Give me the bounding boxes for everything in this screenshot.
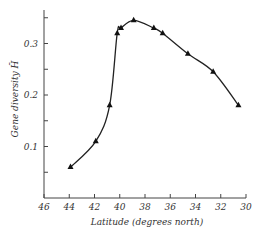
x-tick-label: 44	[63, 202, 76, 212]
x-tick-label: 46	[37, 202, 50, 212]
y-axis-label: Gene diversity H̄	[9, 60, 20, 137]
x-axis-label: Latitude (degrees north)	[90, 217, 204, 227]
x-tick-label: 42	[88, 202, 101, 212]
data-curve	[71, 20, 239, 167]
y-tick-label: 0.3	[24, 39, 39, 49]
x-tick-label: 38	[139, 202, 151, 212]
gene-diversity-chart: 0.10.20.3464442403836343230Latitude (deg…	[0, 0, 259, 232]
x-tick-label: 40	[113, 202, 126, 212]
y-tick-label: 0.2	[24, 90, 39, 100]
x-tick-label: 36	[165, 202, 177, 212]
x-tick-label: 34	[190, 202, 202, 212]
triangle-marker	[185, 50, 191, 56]
x-tick-label: 32	[215, 202, 227, 212]
triangle-marker	[114, 30, 120, 36]
triangle-marker	[107, 102, 113, 108]
triangle-marker	[131, 17, 137, 23]
x-tick-label: 30	[240, 202, 252, 212]
y-tick-label: 0.1	[24, 142, 38, 152]
